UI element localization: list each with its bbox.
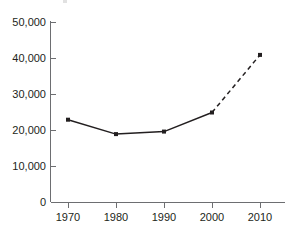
x-axis-label-1980: 1980 <box>104 211 128 223</box>
x-axis-label-2000: 2000 <box>200 211 224 223</box>
x-axis-label-1970: 1970 <box>56 211 80 223</box>
y-axis-label-0: 0 <box>40 196 46 208</box>
y-axis-label-20000: 20,000 <box>12 124 46 136</box>
y-axis-label-10000: 10,000 <box>12 160 46 172</box>
data-point-2010 <box>258 53 262 57</box>
data-point-2000 <box>210 111 214 115</box>
data-point-1990 <box>162 130 166 134</box>
line-chart: 50,000 40,000 30,000 20,000 10,000 0 197… <box>0 0 292 234</box>
y-axis-label-50000: 50,000 <box>12 16 46 28</box>
data-point-1980 <box>114 132 118 136</box>
clipped-title-artifact <box>63 0 67 3</box>
x-axis-label-1990: 1990 <box>152 211 176 223</box>
x-axis-label-2010: 2010 <box>248 211 272 223</box>
data-point-1970 <box>66 118 70 122</box>
y-axis-label-30000: 30,000 <box>12 88 46 100</box>
y-axis-label-40000: 40,000 <box>12 52 46 64</box>
chart-canvas: 50,000 40,000 30,000 20,000 10,000 0 197… <box>0 0 292 234</box>
